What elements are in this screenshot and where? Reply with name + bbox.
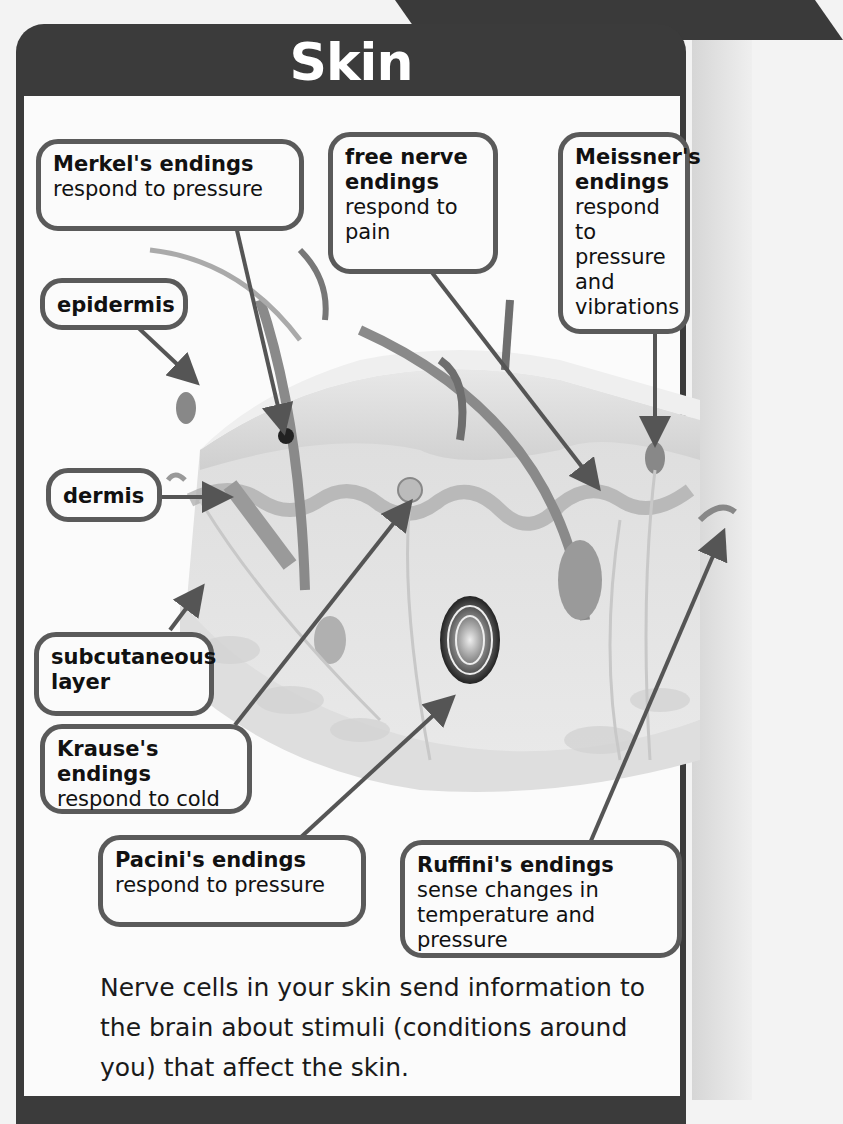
callout-desc: respond to pressure xyxy=(53,177,263,201)
callout-krauses-endings: Krause's endings respond to cold xyxy=(40,724,252,814)
callout-ruffinis-endings: Ruffini's endings sense changes in tempe… xyxy=(400,840,682,958)
callout-desc: respond to pressure xyxy=(115,873,325,897)
figure-caption: Nerve cells in your skin send informatio… xyxy=(100,968,660,1088)
callout-desc: respond to cold xyxy=(57,787,220,811)
callout-pacinis-endings: Pacini's endings respond to pressure xyxy=(98,835,366,927)
callout-term: Ruffini's endings xyxy=(417,853,614,877)
callout-dermis: dermis xyxy=(46,468,162,522)
callout-term: Merkel's endings xyxy=(53,152,253,176)
callout-subcutaneous-layer: subcutaneous layer xyxy=(34,632,214,716)
callout-desc: respond to pressure and vibrations xyxy=(575,195,679,319)
callout-meissners-endings: Meissner's endings respond to pressure a… xyxy=(558,132,690,334)
callout-term: free nerve endings xyxy=(345,145,468,194)
callout-free-nerve-endings: free nerve endings respond to pain xyxy=(328,132,498,274)
callout-term: Pacini's endings xyxy=(115,848,306,872)
callout-term: Meissner's endings xyxy=(575,145,701,194)
callout-term: Krause's endings xyxy=(57,737,158,786)
callout-epidermis: epidermis xyxy=(40,278,188,330)
callout-term: subcutaneous layer xyxy=(51,645,216,694)
callout-term: dermis xyxy=(63,484,144,508)
callout-term: epidermis xyxy=(57,293,175,317)
callout-desc: respond to pain xyxy=(345,195,458,244)
callout-merkels-endings: Merkel's endings respond to pressure xyxy=(36,139,304,231)
callout-desc: sense changes in temperature and pressur… xyxy=(417,878,599,952)
merkel-arrow xyxy=(236,226,283,428)
